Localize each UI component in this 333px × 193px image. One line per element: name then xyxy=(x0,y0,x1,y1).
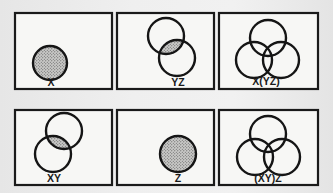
panel-xy: XY xyxy=(15,110,112,185)
panel-x-yz: X(YZ) xyxy=(219,13,318,89)
panel-xy-z: (XY)Z xyxy=(219,110,318,185)
venn-diagram-grid: X YZ X(YZ) XY xyxy=(0,0,333,193)
panel-label: XY xyxy=(47,172,61,184)
panel-yz: YZ xyxy=(117,13,214,89)
panel-label: X(YZ) xyxy=(252,75,279,87)
panel-x: X xyxy=(15,13,112,89)
panel-label: Z xyxy=(175,172,182,184)
panel-label: (XY)Z xyxy=(254,172,282,184)
panel-label: YZ xyxy=(171,76,185,88)
panel-z: Z xyxy=(117,110,214,185)
panel-label: X xyxy=(47,76,54,88)
figure-canvas: X YZ X(YZ) XY xyxy=(0,0,333,193)
